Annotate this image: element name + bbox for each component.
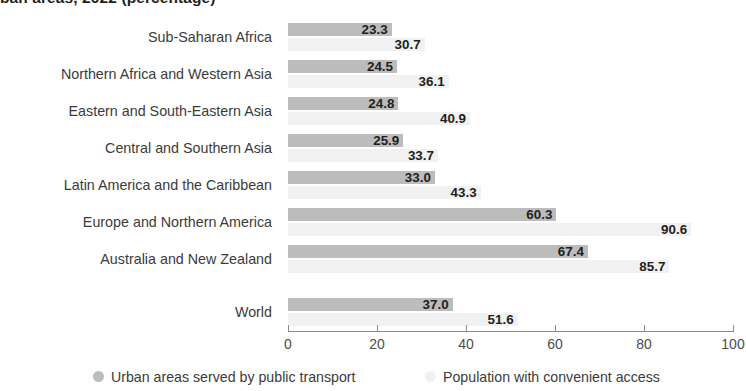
category-label: Sub-Saharan Africa <box>0 30 272 44</box>
bar-value-label: 24.5 <box>359 60 393 73</box>
bar-value-label: 25.9 <box>365 134 399 147</box>
x-tick-label: 40 <box>458 336 474 352</box>
bar-value-label: 24.8 <box>360 97 394 110</box>
bar-urban-served <box>288 208 556 221</box>
bar-value-label: 36.1 <box>411 75 445 88</box>
legend-label: Population with convenient access <box>443 369 660 385</box>
category-label: Australia and New Zealand <box>0 252 272 266</box>
bar-chart: ban areas, 2022 (percentage) Sub-Saharan… <box>0 0 746 391</box>
bar-value-label: 40.9 <box>432 112 466 125</box>
x-tick-label: 80 <box>636 336 652 352</box>
bar-value-label: 33.7 <box>400 149 434 162</box>
x-tick <box>644 325 645 332</box>
category-label: World <box>0 305 272 319</box>
x-tick <box>377 325 378 332</box>
chart-title: ban areas, 2022 (percentage) <box>0 0 420 8</box>
chart-legend: Urban areas served by public transport P… <box>0 362 746 391</box>
bar-value-label: 67.4 <box>550 245 584 258</box>
category-label: Europe and Northern America <box>0 215 272 229</box>
bar-value-label: 23.3 <box>354 23 388 36</box>
bar-value-label: 85.7 <box>631 260 665 273</box>
bar-value-label: 60.3 <box>518 208 552 221</box>
category-label: Latin America and the Caribbean <box>0 178 272 192</box>
bar-value-label: 51.6 <box>480 313 514 326</box>
x-tick-label: 60 <box>547 336 563 352</box>
x-tick-label: 20 <box>369 336 385 352</box>
category-label: Northern Africa and Western Asia <box>0 67 272 81</box>
x-tick-label: 100 <box>721 336 744 352</box>
category-label: Eastern and South-Eastern Asia <box>0 104 272 118</box>
legend-item-population-convenient-access[interactable]: Population with convenient access <box>425 362 660 391</box>
x-tick-label: 0 <box>284 336 292 352</box>
x-tick <box>733 325 734 332</box>
legend-swatch-icon <box>425 371 436 382</box>
category-label: Central and Southern Asia <box>0 141 272 155</box>
bar-convenient-access <box>288 223 691 236</box>
bar-value-label: 33.0 <box>397 171 431 184</box>
x-tick <box>466 325 467 332</box>
bar-value-label: 37.0 <box>415 298 449 311</box>
x-tick <box>555 325 556 332</box>
x-axis-line <box>288 331 733 332</box>
legend-item-urban-areas-served[interactable]: Urban areas served by public transport <box>93 362 355 391</box>
x-tick <box>288 325 289 332</box>
bar-value-label: 90.6 <box>653 223 687 236</box>
legend-swatch-icon <box>93 371 104 382</box>
bar-urban-served <box>288 245 588 258</box>
legend-label: Urban areas served by public transport <box>111 369 355 385</box>
bar-convenient-access <box>288 260 669 273</box>
bar-value-label: 30.7 <box>387 38 421 51</box>
bar-value-label: 43.3 <box>443 186 477 199</box>
